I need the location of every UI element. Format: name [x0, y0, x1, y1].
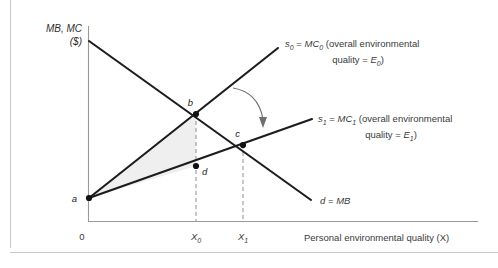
point-label-a: a — [72, 193, 77, 204]
s0-l2-prefix: quality = — [332, 54, 370, 65]
point-c-dot — [240, 142, 246, 148]
tick-label-x1: X1 — [237, 231, 248, 244]
supply-curve-0-label-line1: s0 = MC0 (overall environmental — [285, 38, 419, 51]
y-axis-title-line1: MB, MC — [46, 23, 83, 34]
y-axis-title-line2: ($) — [70, 36, 82, 47]
tick-label-x0: X0 — [190, 231, 201, 244]
d-mb: MB — [336, 195, 351, 206]
tick-label-x1-sub: 1 — [244, 237, 248, 244]
supply-shift-arrowhead — [259, 117, 267, 128]
economics-diagram: a b c d MB, MC ($) 0 X0 X1 Personal envi… — [0, 0, 498, 268]
s0-tail: (overall environmental — [323, 38, 419, 49]
point-label-d: d — [202, 166, 208, 177]
point-b-dot — [193, 111, 199, 117]
s1-tail: (overall environmental — [356, 113, 452, 124]
supply-curve-0 — [89, 48, 278, 198]
supply-shift-arrow — [233, 88, 263, 119]
s0-l2-tail: ) — [381, 54, 384, 65]
diagram-canvas: a b c d MB, MC ($) 0 X0 X1 Personal envi… — [0, 0, 498, 268]
point-label-b: b — [188, 97, 193, 108]
s1-l2-prefix: quality = — [365, 129, 403, 140]
s0-mc: MC — [304, 38, 319, 49]
s1-l2-tail: ) — [414, 129, 417, 140]
supply-curve-0-label-line2: quality = E0) — [332, 54, 384, 67]
d-eq-sign: = — [328, 195, 336, 206]
s1-mc: MC — [337, 113, 352, 124]
tick-label-x0-sub: 0 — [197, 237, 201, 244]
point-d-dot — [193, 163, 199, 169]
x-axis-title: Personal environmental quality (X) — [304, 232, 449, 243]
supply-curve-1-label-line2: quality = E1) — [365, 129, 417, 142]
supply-curve-1 — [89, 119, 312, 198]
point-label-c: c — [235, 128, 240, 139]
origin-label: 0 — [79, 231, 84, 242]
s1-eq-sign: = — [329, 113, 337, 124]
supply-curve-1-label-line1: s1 = MC1 (overall environmental — [318, 113, 452, 126]
point-a-dot — [86, 195, 92, 201]
demand-curve-label: d = MB — [320, 195, 351, 206]
s0-eq-sign: = — [296, 38, 304, 49]
